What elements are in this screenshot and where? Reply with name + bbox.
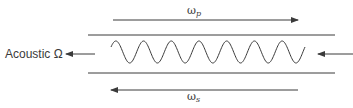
stokes-label: ωs bbox=[187, 90, 200, 104]
acoustic-wave bbox=[111, 41, 305, 63]
pump-label: ωp bbox=[187, 4, 201, 18]
acoustic-label: Acoustic Ω bbox=[5, 47, 63, 61]
brillouin-diagram: ωp ωs Acoustic Ω bbox=[0, 0, 353, 108]
